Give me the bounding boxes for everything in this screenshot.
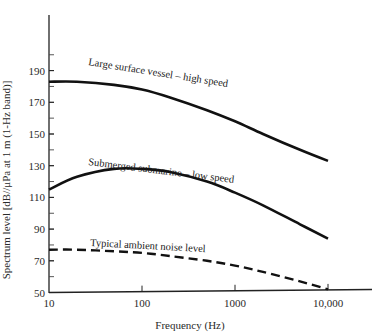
series-curves <box>49 81 328 289</box>
y-tick-label: 90 <box>34 223 46 235</box>
x-tick-label: 100 <box>134 297 151 309</box>
ambient-noise-curve <box>49 250 328 290</box>
x-tick-label: 1000 <box>224 297 247 309</box>
y-axis-title: Spectrum level [dB//μPa at 1 m (1-Hz ban… <box>0 81 13 280</box>
x-tick-label: 10,000 <box>313 297 344 309</box>
x-axis-line <box>49 290 372 293</box>
x-tick-label: 10 <box>44 297 56 309</box>
y-tick-label: 130 <box>29 160 46 172</box>
large-surface-vessel-curve <box>49 81 328 160</box>
y-axis-ticks: 507090110130150170190 <box>29 55 55 299</box>
x-axis-title: Frequency (Hz) <box>155 319 225 332</box>
y-tick-label: 70 <box>34 255 46 267</box>
curve-labels: Large surface vessel – high speedSubmerg… <box>88 56 236 254</box>
y-tick-label: 150 <box>29 128 46 140</box>
y-tick-label: 170 <box>29 96 46 108</box>
y-tick-label: 190 <box>29 65 46 77</box>
y-tick-label: 110 <box>29 191 46 203</box>
spectrum-chart: 507090110130150170190 10100100010,000 La… <box>0 0 383 334</box>
x-axis-ticks: 10100100010,000 <box>44 284 344 309</box>
